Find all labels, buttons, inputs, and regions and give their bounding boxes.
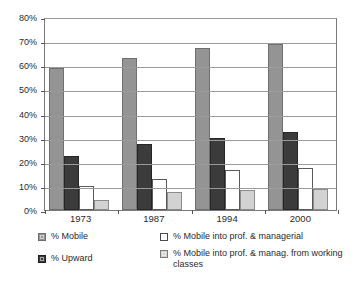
x-tick-mark	[338, 210, 339, 214]
bar	[210, 138, 225, 210]
legend-column-left: % Mobile% Upward	[38, 231, 153, 275]
y-axis: 0%10%20%30%40%50%60%70%80%	[0, 0, 40, 225]
y-tick-label: 80%	[19, 14, 37, 23]
gridline	[45, 67, 336, 68]
y-tick-label: 20%	[19, 158, 37, 167]
bar	[283, 132, 298, 210]
x-tick-label: 2000	[290, 213, 311, 225]
gridline	[45, 164, 336, 165]
legend-label: % Upward	[51, 253, 93, 264]
legend-swatch-icon	[160, 250, 168, 258]
y-tick-mark	[41, 116, 45, 117]
y-tick-label: 40%	[19, 110, 37, 119]
y-tick-mark	[41, 67, 45, 68]
bar	[167, 192, 182, 210]
gridline	[45, 91, 336, 92]
y-tick-label: 10%	[19, 182, 37, 191]
legend-item[interactable]: % Mobile into prof. & managerial	[160, 231, 350, 242]
y-tick-mark	[41, 43, 45, 44]
bar	[79, 186, 94, 210]
y-tick-label: 60%	[19, 62, 37, 71]
gridline	[45, 116, 336, 117]
x-tick-label: 1973	[70, 213, 91, 225]
y-tick-label: 0%	[24, 207, 37, 216]
legend-item[interactable]: % Mobile into prof. & manag. from workin…	[160, 248, 350, 270]
legend-swatch-icon	[160, 233, 168, 241]
chart-legend: % Mobile% Upward % Mobile into prof. & m…	[0, 231, 354, 299]
legend-column-right: % Mobile into prof. & managerial% Mobile…	[160, 231, 350, 276]
bar	[152, 179, 167, 210]
x-axis-category-labels: 1973198719942000	[44, 213, 337, 229]
y-tick-mark	[41, 164, 45, 165]
legend-item[interactable]: % Mobile	[38, 231, 153, 242]
legend-swatch-icon	[38, 233, 46, 241]
legend-label: % Mobile into prof. & managerial	[173, 231, 303, 242]
gridline	[45, 188, 336, 189]
bar	[137, 144, 152, 210]
y-tick-label: 70%	[19, 38, 37, 47]
bar	[313, 189, 328, 210]
bar	[240, 190, 255, 211]
bar	[94, 200, 109, 210]
bar	[268, 44, 283, 210]
legend-label: % Mobile	[51, 231, 88, 242]
y-tick-mark	[41, 140, 45, 141]
x-tick-label: 1987	[143, 213, 164, 225]
bar-chart: 0%10%20%30%40%50%60%70%80% 1973198719942…	[0, 0, 354, 299]
legend-label: % Mobile into prof. & manag. from workin…	[173, 248, 350, 270]
gridline	[45, 43, 336, 44]
bar	[195, 48, 210, 210]
y-tick-label: 30%	[19, 134, 37, 143]
legend-swatch-icon	[38, 255, 46, 263]
y-tick-mark	[41, 91, 45, 92]
bar	[298, 168, 313, 210]
bars-layer	[45, 19, 336, 210]
gridline	[45, 140, 336, 141]
plot-area	[44, 18, 337, 211]
x-tick-label: 1994	[217, 213, 238, 225]
plot-wrapper: 0%10%20%30%40%50%60%70%80% 1973198719942…	[0, 0, 354, 225]
y-tick-label: 50%	[19, 86, 37, 95]
y-tick-mark	[41, 188, 45, 189]
bar	[225, 170, 240, 210]
y-tick-mark	[41, 19, 45, 20]
legend-item[interactable]: % Upward	[38, 253, 153, 264]
